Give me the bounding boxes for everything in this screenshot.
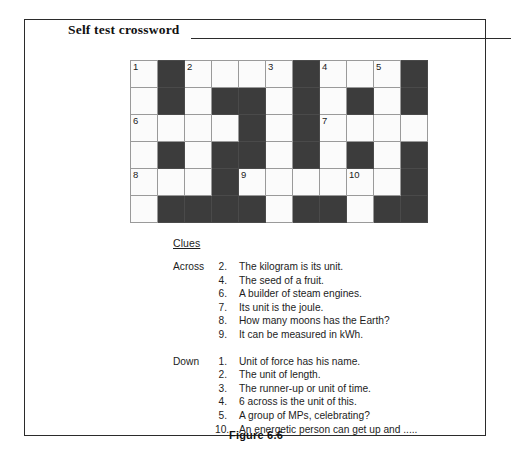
clue-row: 5.A group of MPs, celebrating? [173,409,463,423]
crossword-cell[interactable] [320,169,347,196]
crossword-cell-blocked [401,88,428,115]
clue-row: 2.The unit of length. [173,368,463,382]
crossword-cell[interactable]: 1 [131,61,158,88]
crossword-cell[interactable] [158,169,185,196]
crossword-cell[interactable]: 7 [320,115,347,142]
clue-number: 4. [215,274,239,288]
crossword-cell-blocked [158,142,185,169]
crossword-cell-blocked [239,142,266,169]
crossword-cell[interactable] [374,142,401,169]
crossword-cell[interactable] [347,196,374,223]
crossword-cell-number: 7 [322,115,327,126]
crossword-cell[interactable]: 2 [185,61,212,88]
crossword-row: 12345 [131,61,428,88]
crossword-cell[interactable] [320,142,347,169]
crossword-cell-blocked [158,61,185,88]
clue-text: A group of MPs, celebrating? [239,409,463,423]
crossword-cell[interactable] [293,169,320,196]
crossword-row [131,196,428,223]
crossword-cell[interactable] [185,88,212,115]
crossword-cell[interactable]: 3 [266,61,293,88]
crossword-grid-body: 12345678910 [131,61,428,223]
crossword-cell-blocked [374,196,401,223]
clue-row: 8.How many moons has the Earth? [173,314,463,328]
crossword-cell-blocked [158,196,185,223]
clue-text: It can be measured in kWh. [239,328,463,342]
across-clues-block: Across2.The kilogram is its unit.4.The s… [173,260,463,342]
crossword-cell[interactable]: 6 [131,115,158,142]
crossword-cell-blocked [158,88,185,115]
clue-number: 4. [215,395,239,409]
crossword-cell[interactable] [320,88,347,115]
crossword-row: 8910 [131,169,428,196]
crossword-cell-number: 9 [241,169,246,180]
crossword-cell[interactable] [266,169,293,196]
clue-text: Its unit is the joule. [239,301,463,315]
clues-section: Clues Across2.The kilogram is its unit.4… [173,237,463,449]
crossword-cell-blocked [239,115,266,142]
clue-row: 3.The runner-up or unit of time. [173,382,463,396]
crossword-cell-blocked [320,196,347,223]
clue-row: 6.A builder of steam engines. [173,287,463,301]
crossword-cell-blocked [212,88,239,115]
crossword-cell[interactable] [374,88,401,115]
clue-number: 5. [215,409,239,423]
crossword-cell[interactable] [239,61,266,88]
title-rule [191,38,511,39]
crossword-cell-blocked [401,142,428,169]
crossword-row [131,142,428,169]
crossword-cell[interactable] [185,142,212,169]
crossword-cell-number: 5 [376,61,381,72]
crossword-cell-blocked [293,115,320,142]
clue-number: 6. [215,287,239,301]
crossword-cell[interactable] [347,61,374,88]
crossword-cell-blocked [212,142,239,169]
clue-text: The runner-up or unit of time. [239,382,463,396]
crossword-cell[interactable] [131,142,158,169]
clue-row: Across2.The kilogram is its unit. [173,260,463,274]
crossword-cell[interactable]: 9 [239,169,266,196]
crossword-cell[interactable] [266,88,293,115]
crossword-cell[interactable] [212,61,239,88]
crossword-cell-blocked [347,142,374,169]
crossword-cell[interactable] [266,115,293,142]
clue-row: Down1.Unit of force has his name. [173,355,463,369]
crossword-cell[interactable]: 10 [347,169,374,196]
crossword-row [131,88,428,115]
crossword-cell-number: 2 [187,61,192,72]
crossword-cell[interactable] [131,196,158,223]
crossword-cell[interactable] [401,115,428,142]
crossword-cell-blocked [293,196,320,223]
crossword-cell-blocked [401,169,428,196]
crossword-cell[interactable] [185,169,212,196]
clues-heading: Clues [173,237,463,249]
crossword-cell[interactable]: 8 [131,169,158,196]
crossword-cell[interactable] [347,115,374,142]
clue-row: 9.It can be measured in kWh. [173,328,463,342]
down-clues-block: Down1.Unit of force has his name.2.The u… [173,355,463,437]
crossword-cell-blocked [212,169,239,196]
clue-number: 2. [215,368,239,382]
crossword-cell[interactable] [266,196,293,223]
crossword-cell[interactable] [131,88,158,115]
crossword-cell[interactable]: 5 [374,61,401,88]
clue-text: The seed of a fruit. [239,274,463,288]
crossword-cell[interactable] [212,115,239,142]
crossword-cell[interactable] [266,142,293,169]
crossword-cell[interactable] [374,115,401,142]
clue-text: A builder of steam engines. [239,287,463,301]
crossword-cell[interactable]: 4 [320,61,347,88]
crossword-cell[interactable] [374,169,401,196]
clue-text: The unit of length. [239,368,463,382]
crossword-cell-blocked [347,88,374,115]
clue-text: How many moons has the Earth? [239,314,463,328]
crossword-cell-number: 1 [133,61,138,72]
clue-number: 2. [215,260,239,274]
crossword-grid[interactable]: 12345678910 [130,60,428,223]
crossword-cell[interactable] [185,115,212,142]
clue-row: 4.The seed of a fruit. [173,274,463,288]
crossword-cell[interactable] [158,115,185,142]
clue-number: 9. [215,328,239,342]
crossword-cell-number: 10 [349,169,360,180]
crossword-cell-blocked [185,196,212,223]
